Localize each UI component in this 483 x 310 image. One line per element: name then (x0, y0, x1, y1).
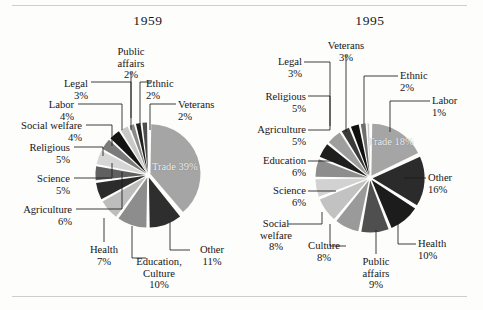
label-1995-labor: Labor 1% (432, 95, 476, 118)
label-1959-education-culture: Education, Culture 10% (128, 256, 190, 291)
label-1995-public-affairs: Public affairs 9% (352, 256, 400, 291)
label-1995-education: Education 6% (238, 155, 306, 178)
label-1959-religious: Religious 5% (8, 142, 70, 165)
label-1995-social-welfare: Social welfare 8% (250, 218, 302, 253)
label-1959-health: Health 7% (82, 244, 126, 267)
label-1995-culture: Culture 8% (300, 240, 348, 263)
label-1959-other: Other 11% (192, 244, 232, 267)
label-1995-trade: Trade 18% (368, 136, 410, 147)
label-1995-religious: Religious 5% (244, 91, 306, 114)
label-1995-health: Health 10% (418, 238, 468, 261)
label-1995-legal: Legal 3% (256, 56, 302, 79)
label-1995-veterans: Veterans 3% (318, 40, 374, 63)
label-1959-legal: Legal 3% (36, 78, 88, 101)
label-1995-agriculture: Agriculture 5% (236, 124, 306, 147)
label-1959-labor: Labor 4% (22, 99, 74, 122)
label-1959-public-affairs: Public affairs 2% (102, 46, 160, 81)
label-1959-agriculture: Agriculture 6% (0, 204, 72, 227)
label-1995-other: Other 16% (428, 172, 474, 195)
label-1959-social-welfare: Social welfare 4% (2, 120, 82, 143)
label-1959-ethnic: Ethnic 2% (146, 78, 198, 101)
label-1995-science: Science 6% (246, 185, 306, 208)
label-1995-ethnic: Ethnic 2% (400, 70, 448, 93)
chart-title-1995: 1995 (340, 13, 400, 29)
label-1959-veterans: Veterans 2% (178, 99, 238, 122)
chart-title-1959: 1959 (118, 13, 178, 29)
label-1959-science: Science 5% (8, 173, 70, 196)
label-1959-trade: Trade 39% (152, 161, 196, 172)
figure-canvas: 1959 1995 Public affairs 2% Legal 3% Eth… (0, 0, 483, 310)
